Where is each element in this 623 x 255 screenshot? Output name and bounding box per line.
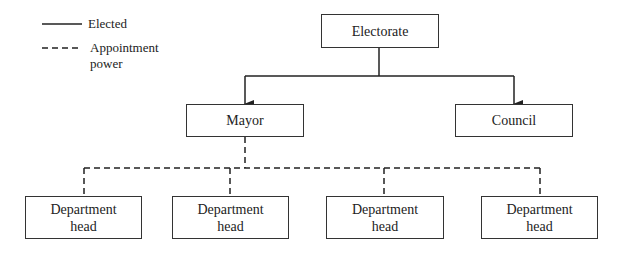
elected-connectors [245, 48, 514, 104]
legend-appointment-line1: Appointment [90, 40, 159, 56]
node-mayor-label: Mayor [226, 112, 263, 129]
node-department-head-line1: Department [506, 201, 572, 218]
node-department-head-line2: head [506, 218, 572, 235]
node-department-head-line2: head [352, 218, 418, 235]
node-department-head: Department head [172, 196, 289, 239]
appointment-connectors [84, 137, 540, 196]
node-mayor: Mayor [186, 104, 304, 137]
node-electorate-label: Electorate [352, 23, 409, 40]
node-department-head: Department head [25, 196, 142, 239]
node-department-head: Department head [326, 196, 444, 239]
node-department-head-line1: Department [197, 201, 263, 218]
node-council: Council [455, 104, 573, 137]
node-department-head-line2: head [50, 218, 116, 235]
node-department-head-line1: Department [352, 201, 418, 218]
node-council-label: Council [492, 112, 536, 129]
node-department-head: Department head [481, 196, 598, 239]
legend-elected-label: Elected [88, 16, 127, 32]
node-department-head-line1: Department [50, 201, 116, 218]
legend-appointment-line2: power [90, 56, 159, 72]
legend-appointment-label: Appointment power [90, 40, 159, 72]
node-department-head-line2: head [197, 218, 263, 235]
node-electorate: Electorate [321, 14, 439, 48]
